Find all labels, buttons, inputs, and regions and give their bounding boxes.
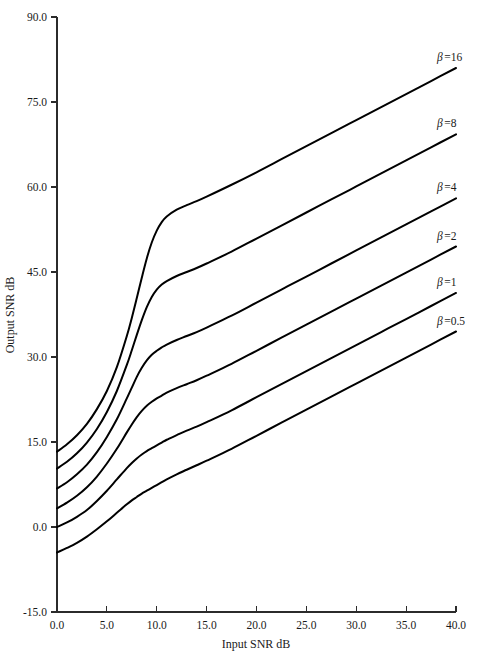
y-tick-label: 30.0 <box>27 351 47 363</box>
series-labels: β=16β=8β=4β=2β=1β=0.5 <box>436 51 465 328</box>
x-tick-label: 35.0 <box>396 619 416 631</box>
x-tick-label: 15.0 <box>197 619 217 631</box>
y-tick-label: 75.0 <box>27 96 47 108</box>
y-tick-label: 60.0 <box>27 181 47 193</box>
y-tick-label: 90.0 <box>27 11 47 23</box>
y-axis-title: Output SNR dB <box>3 277 17 354</box>
y-tick-labels: 90.075.060.045.030.015.00.0-15.0 <box>23 11 47 618</box>
x-tick-label: 20.0 <box>246 619 266 631</box>
data-curves <box>57 68 456 553</box>
series-label-beta-2: β=2 <box>436 230 457 243</box>
chart-figure: 90.075.060.045.030.015.00.0-15.0 0.05.01… <box>0 0 479 657</box>
series-label-beta-16: β=16 <box>436 51 462 64</box>
y-tick-label: 15.0 <box>27 436 47 448</box>
y-tick-label: 45.0 <box>27 266 47 278</box>
x-tick-label: 0.0 <box>50 619 65 631</box>
x-tick-label: 40.0 <box>446 619 466 631</box>
series-label-beta-0.5: β=0.5 <box>436 315 465 328</box>
x-tick-group <box>57 606 456 612</box>
x-tick-label: 30.0 <box>346 619 366 631</box>
axes-group <box>57 17 456 612</box>
x-tick-label: 10.0 <box>147 619 167 631</box>
series-label-beta-4: β=4 <box>436 181 457 194</box>
x-axis-title: Input SNR dB <box>222 637 291 651</box>
y-tick-group <box>51 17 57 612</box>
snr-line-chart: 90.075.060.045.030.015.00.0-15.0 0.05.01… <box>0 0 479 657</box>
x-tick-label: 25.0 <box>296 619 316 631</box>
y-tick-label: -15.0 <box>23 606 47 618</box>
x-tick-label: 5.0 <box>100 619 115 631</box>
series-label-beta-1: β=1 <box>436 276 457 289</box>
x-tick-labels: 0.05.010.015.020.025.030.035.040.0 <box>50 619 467 631</box>
curve-beta-1 <box>57 293 456 527</box>
curve-beta-2 <box>57 247 456 509</box>
curve-beta-16 <box>57 68 456 452</box>
y-tick-label: 0.0 <box>33 521 48 533</box>
curve-beta-4 <box>57 198 456 488</box>
series-label-beta-8: β=8 <box>436 117 457 130</box>
